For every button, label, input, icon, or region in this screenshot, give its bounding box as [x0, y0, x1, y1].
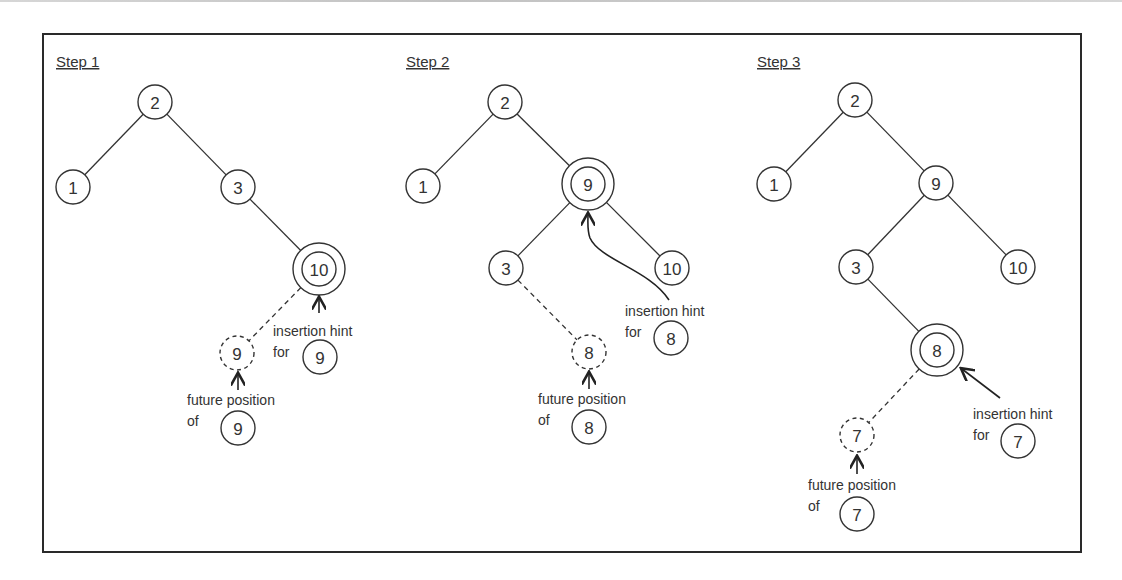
node-label: 1	[769, 176, 778, 195]
hint-node: 8	[911, 324, 963, 376]
tree-node: 3	[221, 170, 255, 204]
annotation-line2: of	[187, 413, 199, 429]
tree-edge	[435, 114, 493, 174]
hint-node: 10	[293, 243, 345, 295]
annotation-value-node: 8	[572, 410, 606, 444]
tree-edge	[786, 112, 843, 172]
step-1-panel: Step 1213109insertion hintfor9future pos…	[56, 53, 352, 445]
node-label: 7	[852, 427, 861, 446]
tree-edge	[948, 195, 1006, 255]
node-label: 9	[583, 176, 592, 195]
node-label: 8	[932, 342, 941, 361]
annotation-line2: of	[538, 412, 550, 428]
tree-node: 2	[138, 85, 172, 119]
node-label: 2	[850, 92, 859, 111]
annotation-value-node: 9	[221, 411, 255, 445]
node-label: 1	[68, 179, 77, 198]
tree-node: 10	[1001, 250, 1035, 284]
annotation-value: 8	[666, 330, 675, 349]
insertion-hint-annotation: insertion hintfor7	[973, 406, 1052, 458]
node-label: 10	[1009, 259, 1028, 278]
annotation-line1: future position	[808, 477, 896, 493]
node-label: 3	[233, 179, 242, 198]
future-node: 9	[220, 336, 254, 370]
future-node: 7	[840, 418, 874, 452]
tree-edge	[606, 202, 660, 256]
annotation-value: 7	[1013, 433, 1022, 452]
tree-edge	[868, 279, 919, 331]
tree-edge	[517, 114, 569, 166]
annotation-value-node: 9	[303, 340, 337, 374]
future-position-annotation: future positionof7	[808, 477, 896, 531]
insertion-hint-arrow-icon	[962, 369, 1000, 398]
step-2-panel: Step 22193108insertion hintfor8future po…	[406, 53, 704, 444]
node-label: 10	[663, 260, 682, 279]
step-title: Step 3	[757, 53, 800, 70]
annotation-line2: for	[973, 427, 990, 443]
tree-node: 2	[488, 85, 522, 119]
step-title: Step 2	[406, 53, 449, 70]
hint-node: 9	[562, 158, 614, 210]
insertion-hint-annotation: insertion hintfor9	[273, 323, 352, 374]
tree-edge	[868, 195, 925, 254]
node-label: 2	[150, 94, 159, 113]
annotation-value-node: 7	[1001, 424, 1035, 458]
annotation-line1: insertion hint	[973, 406, 1052, 422]
annotation-line1: insertion hint	[273, 323, 352, 339]
annotation-line2: for	[273, 344, 290, 360]
step-title: Step 1	[56, 53, 99, 70]
annotation-line1: future position	[187, 392, 275, 408]
step-3-panel: Step 321931087insertion hintfor7future p…	[757, 53, 1052, 531]
annotation-value: 8	[584, 419, 593, 438]
tree-node: 1	[757, 167, 791, 201]
node-label: 2	[500, 94, 509, 113]
node-label: 1	[418, 178, 427, 197]
tree-node: 1	[56, 170, 90, 204]
tree-edge	[167, 114, 226, 175]
annotation-value: 9	[315, 349, 324, 368]
node-label: 9	[931, 175, 940, 194]
tree-node: 9	[919, 166, 953, 200]
annotation-value-node: 7	[840, 497, 874, 531]
annotation-value-node: 8	[654, 321, 688, 355]
tree-insertion-diagram: Step 1213109insertion hintfor9future pos…	[0, 0, 1122, 580]
annotation-line1: future position	[538, 391, 626, 407]
node-label: 3	[851, 259, 860, 278]
tree-node: 3	[489, 251, 523, 285]
future-position-annotation: future positionof9	[187, 392, 275, 445]
insertion-hint-annotation: insertion hintfor8	[625, 303, 704, 355]
tree-node: 10	[655, 251, 689, 285]
node-label: 8	[584, 344, 593, 363]
annotation-line2: of	[808, 498, 820, 514]
node-label: 10	[310, 261, 329, 280]
annotation-line1: insertion hint	[625, 303, 704, 319]
tree-node: 3	[839, 250, 873, 284]
insertion-hint-arrow-icon	[588, 214, 669, 300]
future-edge	[869, 369, 920, 423]
tree-node: 1	[406, 169, 440, 203]
node-label: 3	[501, 260, 510, 279]
annotation-value: 9	[233, 420, 242, 439]
tree-edge	[250, 199, 301, 250]
tree-node: 2	[838, 83, 872, 117]
future-position-annotation: future positionof8	[538, 391, 626, 444]
tree-edge	[867, 112, 924, 171]
annotation-value: 7	[852, 506, 861, 525]
tree-edge	[85, 114, 143, 175]
tree-edge	[518, 203, 570, 256]
future-node: 8	[572, 335, 606, 369]
annotation-line2: for	[625, 324, 642, 340]
future-edge	[518, 280, 577, 340]
node-label: 9	[232, 345, 241, 364]
